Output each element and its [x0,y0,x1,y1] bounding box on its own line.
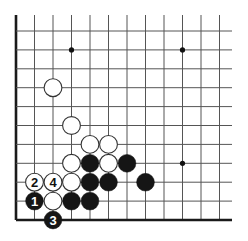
black-stone: 1 [26,192,44,210]
black-stone-icon [63,192,81,210]
go-board: 2413 [0,0,248,241]
move-number-label: 4 [49,175,57,190]
black-stone-icon [137,173,155,191]
white-stone [63,154,81,172]
star-point-icon [69,47,74,52]
black-stone [81,173,99,191]
black-stone-icon [100,173,118,191]
white-stone [100,136,118,154]
black-stone-icon [81,192,99,210]
white-stone-icon [100,136,118,154]
black-stone-icon [81,173,99,191]
black-stone [81,154,99,172]
black-stone [63,192,81,210]
black-stone [137,173,155,191]
white-stone: 4 [44,173,62,191]
white-stone: 2 [26,173,44,191]
white-stone-icon [100,154,118,172]
black-stone: 3 [44,211,62,229]
black-stone [100,173,118,191]
black-stone [81,192,99,210]
white-stone [44,79,62,97]
move-number-label: 2 [31,175,38,190]
star-point-icon [180,47,185,52]
white-stone-icon [44,79,62,97]
white-stone-icon [63,154,81,172]
black-stone-icon [81,154,99,172]
move-number-label: 3 [49,213,56,228]
move-number-label: 1 [31,194,38,209]
white-stone-icon [63,173,81,191]
white-stone [63,173,81,191]
white-stone [81,136,99,154]
white-stone [63,117,81,135]
white-stone [100,154,118,172]
white-stone-icon [63,117,81,135]
black-stone [118,154,136,172]
star-point-icon [180,161,185,166]
black-stone-icon [118,154,136,172]
white-stone-icon [44,192,62,210]
white-stone [44,192,62,210]
white-stone-icon [81,136,99,154]
